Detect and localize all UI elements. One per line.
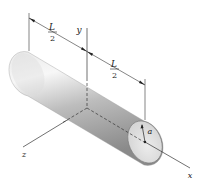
- radius-label: a: [148, 127, 153, 136]
- dim-arrow-left: [29, 18, 35, 23]
- half-length-right-numerator: L: [110, 59, 117, 69]
- z-axis-label: z: [21, 150, 27, 159]
- half-length-left-denominator: 2: [50, 34, 55, 43]
- dim-arrow-mid-right: [87, 52, 93, 57]
- half-length-left-numerator: L: [48, 22, 55, 32]
- dim-arrow-right: [139, 81, 145, 86]
- dim-arrow-mid-left: [81, 47, 87, 52]
- cylinder-diagram: L 2 y L 2 a z x: [0, 0, 204, 185]
- half-length-right-denominator: 2: [112, 71, 117, 80]
- y-axis-label: y: [75, 25, 82, 35]
- x-axis-label: x: [188, 171, 193, 180]
